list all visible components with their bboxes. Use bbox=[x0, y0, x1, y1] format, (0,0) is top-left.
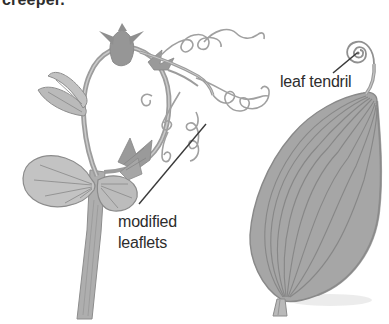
modified-leaflets-pointer-line bbox=[139, 124, 206, 204]
modified-leaflets-label: modified leaflets bbox=[118, 211, 194, 253]
leaf-tendril-label: leaf tendril bbox=[280, 71, 351, 92]
creeper-plant-illustration bbox=[23, 23, 269, 319]
leaf-tendril-pointer-line bbox=[333, 53, 357, 73]
botanical-diagram bbox=[0, 0, 389, 324]
figure: creeper. bbox=[0, 0, 389, 324]
